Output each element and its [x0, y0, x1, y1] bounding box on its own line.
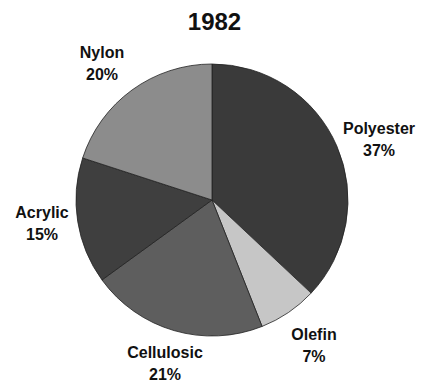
- label-name: Polyester: [334, 118, 424, 140]
- label-name: Cellulosic: [110, 342, 220, 364]
- label-name: Acrylic: [2, 202, 82, 224]
- label-polyester: Polyester 37%: [334, 118, 424, 162]
- label-pct: 20%: [72, 64, 132, 86]
- label-name: Olefin: [284, 324, 344, 346]
- label-olefin: Olefin 7%: [284, 324, 344, 368]
- label-pct: 21%: [110, 364, 220, 386]
- label-pct: 15%: [2, 224, 82, 246]
- label-pct: 7%: [284, 346, 344, 368]
- chart-root: 1982 Polyester 37% Olefin 7% Cellulosic …: [0, 0, 429, 391]
- label-name: Nylon: [72, 42, 132, 64]
- pie-chart: [0, 0, 429, 391]
- label-acrylic: Acrylic 15%: [2, 202, 82, 246]
- label-cellulosic: Cellulosic 21%: [110, 342, 220, 386]
- label-nylon: Nylon 20%: [72, 42, 132, 86]
- label-pct: 37%: [334, 140, 424, 162]
